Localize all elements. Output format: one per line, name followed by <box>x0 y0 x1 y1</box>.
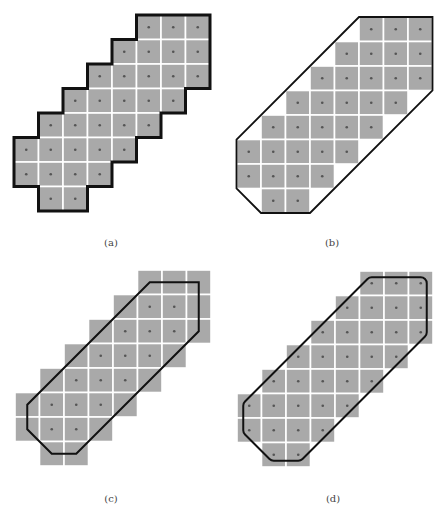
pixel-center-dot <box>297 404 300 407</box>
pixel-center-dot <box>49 197 52 200</box>
pixel-center-dot <box>25 173 28 176</box>
pixel-center-dot <box>297 429 300 432</box>
pixel-center-dot <box>49 173 52 176</box>
pixel-center-dot <box>74 197 77 200</box>
pixel-center-dot <box>50 428 53 431</box>
pixel-center-dot <box>346 380 349 383</box>
pixel-center-dot <box>50 403 53 406</box>
pixel-center-dot <box>247 150 250 153</box>
pixel-center-dot <box>272 175 275 178</box>
pixel-center-dot <box>74 99 77 102</box>
pixel-center-dot <box>321 101 324 104</box>
pixel-center-dot <box>321 175 324 178</box>
pixel-center-dot <box>74 173 77 176</box>
pixel-center-dot <box>419 52 422 55</box>
pixel-center-dot <box>124 330 127 333</box>
pixel-center-dot <box>370 101 373 104</box>
pixel-center-dot <box>394 28 397 31</box>
pixel-center-dot <box>345 101 348 104</box>
pixel-center-dot <box>297 380 300 383</box>
pixel-center-dot <box>49 148 52 151</box>
pixel-center-dot <box>123 124 126 127</box>
pixel-center-dot <box>419 28 422 31</box>
pixel-center-dot <box>321 150 324 153</box>
pixel-center-dot <box>196 50 199 53</box>
pixel-center-dot <box>345 150 348 153</box>
pixel-center-dot <box>370 331 373 334</box>
pixel-center-dot <box>296 126 299 129</box>
pixel-center-dot <box>49 124 52 127</box>
pixel-center-dot <box>75 428 78 431</box>
pixel-center-dot <box>98 173 101 176</box>
pixel-center-dot <box>370 355 373 358</box>
pixel-center-dot <box>147 75 150 78</box>
panel-c-center-hull <box>15 270 211 466</box>
caption-d: (d) <box>313 493 353 504</box>
pixel-center-dot <box>272 150 275 153</box>
pixel-center-dot <box>345 126 348 129</box>
pixel-center-dot <box>148 354 151 357</box>
pixel-center-dot <box>148 305 151 308</box>
pixel-center-dot <box>196 75 199 78</box>
pixel-center-dot <box>272 199 275 202</box>
panel-d-rounded-hull <box>237 271 433 467</box>
pixel-center-dot <box>147 124 150 127</box>
pixel-center-dot <box>296 175 299 178</box>
pixel-center-dot <box>173 330 176 333</box>
pixel-center-dot <box>196 26 199 29</box>
pixel-center-dot <box>172 75 175 78</box>
pixel-center-dot <box>321 355 324 358</box>
pixel-center-dot <box>172 26 175 29</box>
pixel-center-dot <box>395 331 398 334</box>
pixel-center-dot <box>370 306 373 309</box>
pixel-center-dot <box>123 99 126 102</box>
pixel-center-dot <box>321 126 324 129</box>
pixel-center-dot <box>345 77 348 80</box>
pixel-center-dot <box>123 50 126 53</box>
pixel-center-dot <box>74 124 77 127</box>
pixel-center-dot <box>296 150 299 153</box>
pixel-center-dot <box>345 52 348 55</box>
panel-b-square-hull <box>237 17 433 213</box>
pixel-center-dot <box>272 126 275 129</box>
pixel-center-dot <box>172 50 175 53</box>
pixel-center-dot <box>75 379 78 382</box>
pixel-center-dot <box>99 379 102 382</box>
pixel-center-dot <box>25 148 28 151</box>
pixel-center-dot <box>147 50 150 53</box>
pixel-center-dot <box>124 354 127 357</box>
pixel-center-dot <box>247 175 250 178</box>
pixel-center-dot <box>147 26 150 29</box>
caption-b: (b) <box>312 237 352 248</box>
pixel-center-dot <box>124 379 127 382</box>
pixel-center-dot <box>321 380 324 383</box>
pixel-center-dot <box>172 99 175 102</box>
pixel-center-dot <box>346 331 349 334</box>
pixel-center-dot <box>370 28 373 31</box>
pixel-center-dot <box>75 403 78 406</box>
pixel-center-dot <box>321 77 324 80</box>
pixel-center-dot <box>395 306 398 309</box>
pixel-center-dot <box>99 354 102 357</box>
pixel-center-dot <box>419 77 422 80</box>
pixel-center-dot <box>99 403 102 406</box>
pixel-center-dot <box>98 75 101 78</box>
pixel-center-dot <box>370 52 373 55</box>
pixel-center-dot <box>272 404 275 407</box>
pixel-center-dot <box>98 124 101 127</box>
pixel-center-dot <box>74 148 77 151</box>
pixel-center-dot <box>346 355 349 358</box>
pixel-center-dot <box>394 101 397 104</box>
panel-a-pixel-boundary <box>14 15 210 211</box>
caption-c: (c) <box>91 493 131 504</box>
pixel-center-dot <box>123 75 126 78</box>
pixel-center-dot <box>394 77 397 80</box>
pixel-center-dot <box>148 330 151 333</box>
pixel-center-dot <box>98 148 101 151</box>
figure-canvas <box>0 0 440 511</box>
pixel-center-dot <box>147 99 150 102</box>
pixel-center-dot <box>173 305 176 308</box>
pixel-center-dot <box>370 77 373 80</box>
pixel-center-dot <box>272 429 275 432</box>
pixel-center-dot <box>321 404 324 407</box>
